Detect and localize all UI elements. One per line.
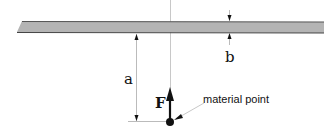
label-a: a — [124, 72, 133, 87]
beam-bottom-edge — [17, 33, 324, 34]
leader-arrow-head — [174, 114, 183, 120]
label-force: F — [155, 96, 166, 111]
label-b: b — [225, 50, 235, 65]
diagram-canvas: a b F material point — [0, 0, 336, 133]
material-point-dot — [166, 118, 174, 126]
label-material-point: material point — [203, 94, 269, 105]
dimension-b-top-arrow — [228, 15, 232, 21]
beam-top-edge — [22, 22, 324, 23]
dimension-a-bottom-arrow — [135, 115, 139, 121]
diagram-svg — [0, 0, 336, 133]
dimension-b-bottom-arrow — [228, 33, 232, 39]
force-arrow-head — [166, 87, 174, 101]
dimension-a-top-arrow — [135, 34, 139, 40]
beam — [17, 21, 324, 33]
